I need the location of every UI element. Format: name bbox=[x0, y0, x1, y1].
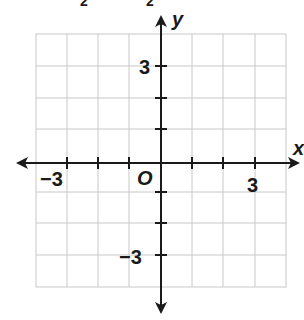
y-tick-label-3: 3 bbox=[139, 56, 150, 78]
top-fragment-right: 2 bbox=[146, 0, 154, 9]
y-tick-label-neg3: −3 bbox=[119, 246, 142, 268]
coordinate-plane: 2 2 y x O bbox=[0, 0, 304, 320]
top-fragment-left: 2 bbox=[80, 0, 88, 9]
x-tick-label-3: 3 bbox=[247, 174, 258, 196]
x-tick-label-neg3: −3 bbox=[40, 168, 63, 190]
origin-label: O bbox=[137, 167, 153, 189]
y-axis-label: y bbox=[171, 8, 184, 30]
x-axis-label: x bbox=[292, 137, 304, 159]
